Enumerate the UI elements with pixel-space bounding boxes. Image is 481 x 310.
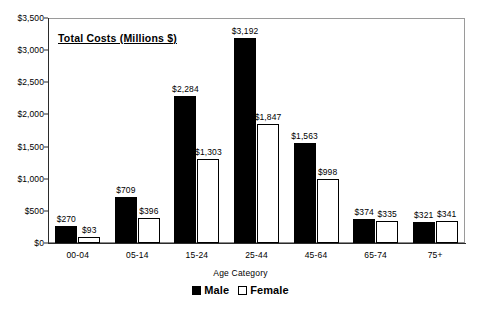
- chart-title: Total Costs (Millions $): [58, 32, 177, 44]
- bar-female-25-44: [257, 124, 279, 243]
- bar-female-15-24: [197, 159, 219, 243]
- x-tick-label-25-44: 25-44: [227, 250, 287, 260]
- y-tick-label: $2,500: [2, 77, 44, 87]
- bar-male-75+: [413, 222, 435, 243]
- y-tick-label: $1,500: [2, 142, 44, 152]
- x-tick-label-00-04: 00-04: [48, 250, 108, 260]
- bar-label-female-15-24: $1,303: [188, 147, 228, 157]
- y-tick-label: $3,000: [2, 45, 44, 55]
- bar-label-female-65-74: $335: [367, 209, 407, 219]
- x-tick-label-65-74: 65-74: [346, 250, 406, 260]
- bar-female-65-74: [376, 221, 398, 243]
- bar-label-female-00-04: $93: [69, 225, 109, 235]
- bar-label-male-00-04: $270: [46, 214, 86, 224]
- y-axis: $0$500$1,000$1,500$2,000$2,500$3,000$3,5…: [0, 0, 44, 310]
- legend-item-female: Female: [238, 284, 289, 296]
- bar-male-65-74: [353, 219, 375, 243]
- x-axis-title: Age Category: [0, 268, 481, 278]
- legend-label-female: Female: [250, 284, 289, 296]
- y-tick-label: $1,000: [2, 174, 44, 184]
- bar-female-00-04: [78, 237, 100, 243]
- bar-label-female-25-44: $1,847: [248, 112, 288, 122]
- legend-label-male: Male: [204, 284, 229, 296]
- bar-male-25-44: [234, 38, 256, 243]
- legend-item-male: Male: [192, 284, 229, 296]
- bar-female-05-14: [138, 218, 160, 243]
- x-tick-label-75+: 75+: [405, 250, 465, 260]
- bar-female-45-64: [317, 179, 339, 243]
- legend-swatch-female-icon: [238, 286, 247, 295]
- y-tick-label: $2,000: [2, 109, 44, 119]
- x-axis-line: [48, 243, 466, 244]
- bar-female-75+: [436, 221, 458, 243]
- bar-label-male-05-14: $709: [106, 185, 146, 195]
- x-tick-label-05-14: 05-14: [107, 250, 167, 260]
- bar-label-female-75+: $341: [427, 209, 467, 219]
- bar-label-female-45-64: $998: [308, 167, 348, 177]
- bar-label-male-15-24: $2,284: [165, 84, 205, 94]
- bar-label-male-25-44: $3,192: [225, 26, 265, 36]
- bar-male-15-24: [174, 96, 196, 243]
- bar-chart-figure: $0$500$1,000$1,500$2,000$2,500$3,000$3,5…: [0, 0, 481, 310]
- chart-legend: Male Female: [0, 284, 481, 296]
- x-tick-label-45-64: 45-64: [286, 250, 346, 260]
- x-tick-label-15-24: 15-24: [167, 250, 227, 260]
- bar-label-male-45-64: $1,563: [285, 131, 325, 141]
- legend-swatch-male-icon: [192, 286, 201, 295]
- y-tick-label: $3,500: [2, 13, 44, 23]
- bar-label-female-05-14: $396: [129, 206, 169, 216]
- y-tick-label: $500: [2, 206, 44, 216]
- y-axis-line: [48, 18, 49, 244]
- bar-male-45-64: [294, 143, 316, 243]
- y-tick-label: $0: [2, 238, 44, 248]
- bar-male-05-14: [115, 197, 137, 243]
